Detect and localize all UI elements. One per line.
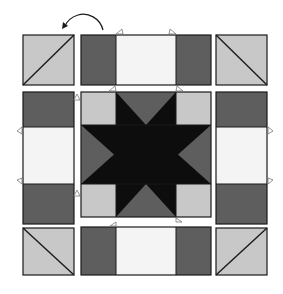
- flying-bar-top-unit: [81, 35, 211, 85]
- star-center-unit: [81, 92, 211, 217]
- rotation-arrow-icon: [62, 14, 103, 30]
- corner-square: [81, 92, 116, 125]
- hst-bottom-left-unit: [23, 228, 74, 275]
- corner-square: [176, 184, 211, 217]
- bar-left-unit: [23, 92, 74, 224]
- corner-square: [81, 184, 116, 217]
- hst-bottom-right-unit: [216, 228, 267, 275]
- corner-square: [176, 92, 211, 125]
- quilt-block-diagram: [0, 0, 283, 294]
- flying-bar-bottom-unit: [81, 227, 211, 275]
- hst-top-right-unit: [216, 35, 267, 85]
- bar-right-unit: [216, 92, 267, 224]
- hst-top-left-unit: [23, 35, 74, 85]
